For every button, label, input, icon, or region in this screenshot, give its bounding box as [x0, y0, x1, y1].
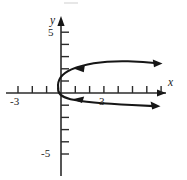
y-axis-arrowhead: [57, 16, 64, 26]
upper-branch-arrowhead: [153, 59, 163, 67]
graph-figure: y x 5 -5 -3 3: [0, 0, 187, 180]
y-tick-label-5: 5: [48, 27, 54, 38]
y-axis-label: y: [50, 15, 55, 27]
x-tick-label-3: 3: [99, 96, 105, 107]
parabola-curve: [58, 59, 162, 109]
x-axis: [6, 86, 166, 97]
x-axis-label: x: [168, 77, 173, 89]
x-tick-label--3: -3: [10, 96, 19, 107]
plot-canvas: [0, 0, 187, 180]
parabola-lower-branch: [58, 88, 154, 106]
parabola-upper-branch: [58, 61, 157, 88]
lower-branch-arrowhead: [151, 102, 161, 110]
y-tick-label--5: -5: [41, 148, 50, 159]
